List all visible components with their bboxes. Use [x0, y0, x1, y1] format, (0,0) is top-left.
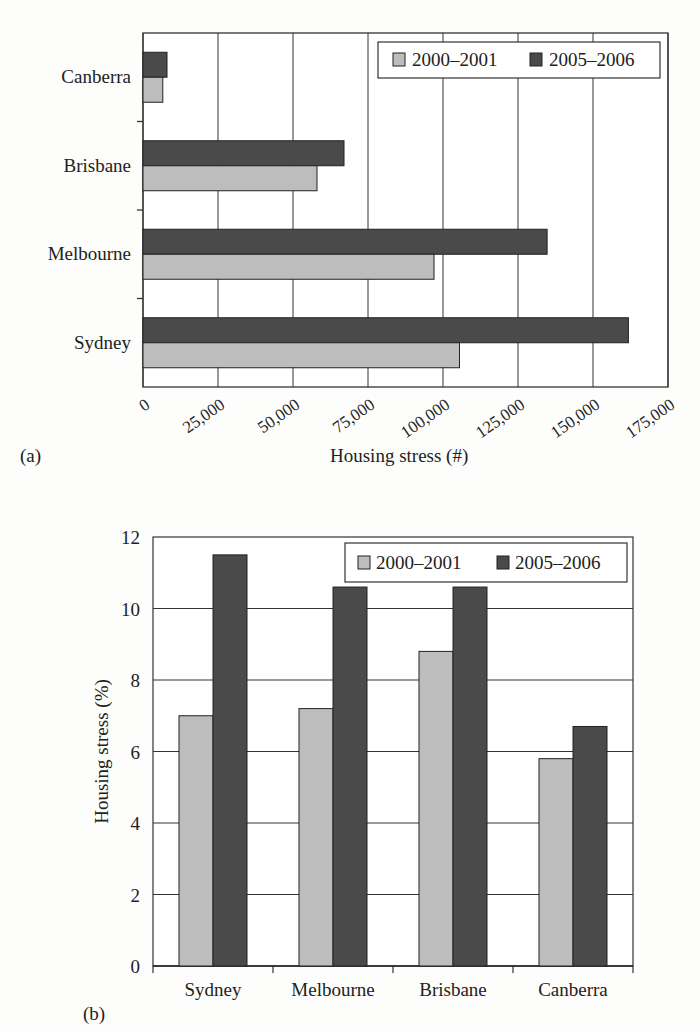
figure: 025,00050,00075,000100,000125,000150,000…	[0, 0, 700, 1031]
legend-swatch-2000-2001	[393, 53, 405, 66]
bar-melbourne-2005-2006	[333, 587, 367, 966]
x-tick-label: 150,000	[547, 395, 603, 442]
x-tick-label: 125,000	[472, 395, 528, 442]
x-tick-label: 100,000	[397, 395, 453, 442]
y-tick-label: 2	[131, 885, 141, 906]
bar-sydney-2005-2006	[143, 318, 628, 343]
x-tick-label: 50,000	[254, 395, 303, 437]
horizontal-bar-chart-housing-stress-count: 025,00050,00075,000100,000125,000150,000…	[0, 0, 700, 500]
y-category-label: Melbourne	[48, 243, 131, 264]
bar-sydney-2000-2001	[143, 343, 460, 368]
bar-brisbane-2005-2006	[453, 587, 487, 966]
x-axis-title-a: Housing stress (#)	[330, 445, 468, 467]
y-category-label: Canberra	[61, 66, 131, 87]
bar-brisbane-2000-2001	[143, 166, 317, 191]
y-tick-label: 0	[131, 956, 141, 977]
panel-label-a: (a)	[20, 445, 41, 467]
y-tick-label: 4	[131, 813, 141, 834]
bar-canberra-2005-2006	[143, 52, 167, 77]
bar-canberra-2000-2001	[539, 759, 573, 966]
y-tick-label: 10	[121, 599, 140, 620]
x-category-label: Brisbane	[419, 979, 487, 1000]
x-tick-label: 0	[135, 395, 153, 415]
bar-melbourne-2000-2001	[143, 254, 434, 279]
legend: 2000–20012005–2006	[345, 543, 627, 582]
x-category-label: Sydney	[185, 979, 243, 1000]
vertical-bar-chart-housing-stress-percent: 024681012Housing stress (%)SydneyMelbour…	[0, 500, 700, 1031]
bar-sydney-2005-2006	[213, 555, 247, 966]
x-tick-label: 25,000	[179, 395, 228, 437]
y-tick-label: 8	[131, 670, 141, 691]
x-tick-label: 75,000	[329, 395, 378, 437]
bar-canberra-2000-2001	[143, 77, 163, 102]
legend-swatch-2005-2006	[530, 53, 542, 66]
legend: 2000–20012005–2006	[378, 42, 660, 78]
bar-brisbane-2005-2006	[143, 141, 344, 166]
y-category-label: Brisbane	[63, 155, 131, 176]
bar-canberra-2005-2006	[573, 726, 607, 966]
x-tick-label: 175,000	[622, 395, 678, 442]
bar-melbourne-2000-2001	[299, 709, 333, 966]
y-category-label: Sydney	[74, 332, 132, 353]
x-category-label: Canberra	[538, 979, 608, 1000]
legend-label-2000-2001: 2000–2001	[412, 49, 498, 70]
bar-melbourne-2005-2006	[143, 229, 547, 254]
legend-label-2005-2006: 2005–2006	[515, 552, 601, 573]
bar-sydney-2000-2001	[179, 716, 213, 966]
legend-swatch-2000-2001	[358, 556, 370, 569]
legend-label-2005-2006: 2005–2006	[549, 49, 635, 70]
y-tick-label: 12	[121, 527, 140, 548]
legend-swatch-2005-2006	[497, 556, 509, 569]
x-category-label: Melbourne	[291, 979, 374, 1000]
panel-label-b: (b)	[83, 1003, 105, 1025]
bar-brisbane-2000-2001	[419, 651, 453, 966]
legend-label-2000-2001: 2000–2001	[376, 552, 462, 573]
y-tick-label: 6	[131, 742, 141, 763]
y-axis-title: Housing stress (%)	[91, 679, 113, 824]
